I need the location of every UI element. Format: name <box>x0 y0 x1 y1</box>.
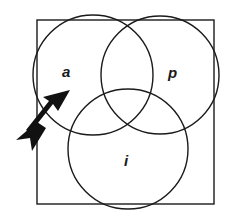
label-a: a <box>62 63 70 80</box>
arrow-icon <box>16 90 70 151</box>
set-p-circle <box>101 16 219 134</box>
set-a-circle <box>33 15 153 135</box>
universe-rectangle <box>37 20 214 204</box>
label-i: i <box>124 152 129 169</box>
label-p: p <box>167 64 177 81</box>
set-i-circle <box>68 89 188 209</box>
venn-diagram: a p i <box>0 0 229 223</box>
